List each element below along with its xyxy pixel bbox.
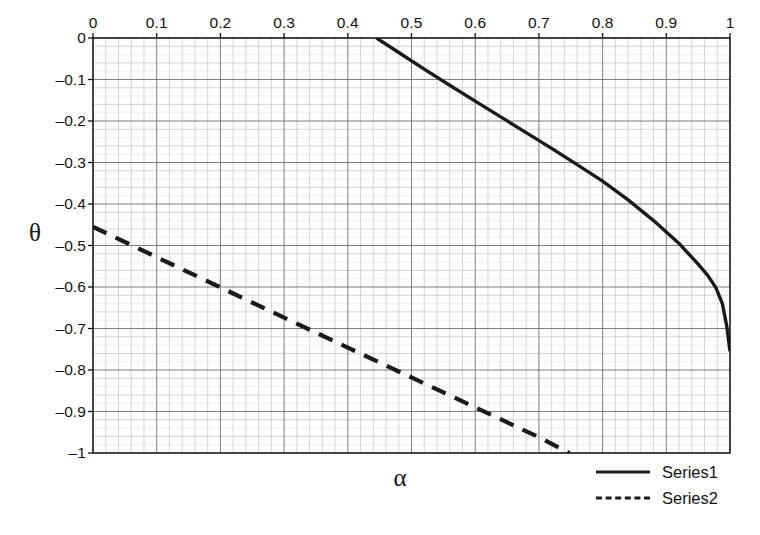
y-tick-label: –1 [69,444,86,462]
legend-item-series2: Series2 [592,485,760,511]
y-tick-label: –0.1 [55,71,86,89]
x-tick-label: 0.8 [592,14,614,32]
x-tick-label: 0.9 [655,14,677,32]
x-axis-title: α [393,464,406,492]
y-axis-tick-labels: 0–0.1–0.2–0.3–0.4–0.5–0.6–0.7–0.8–0.9–1 [0,0,86,535]
x-tick-label: 0.6 [464,14,486,32]
x-tick-label: 0.5 [401,14,423,32]
y-tick-label: –0.5 [55,237,86,255]
y-tick-label: –0.4 [55,195,86,213]
chart-figure: 00.10.20.30.40.50.60.70.80.91 0–0.1–0.2–… [0,0,760,535]
plot-canvas [0,0,760,535]
y-tick-label: –0.7 [55,320,86,338]
x-tick-label: 0.2 [209,14,231,32]
x-tick-label: 0.1 [146,14,168,32]
x-tick-label: 0.7 [528,14,550,32]
y-tick-label: 0 [77,29,86,47]
y-tick-label: –0.3 [55,154,86,172]
y-axis-title: θ [29,219,41,247]
chart-legend: Series1 Series2 [592,459,760,511]
legend-item-series1: Series1 [592,459,760,485]
legend-key-solid-icon [592,465,654,479]
y-tick-label: –0.6 [55,278,86,296]
legend-key-dashed-icon [592,491,654,505]
x-tick-label: 0.4 [337,14,359,32]
legend-label-series1: Series1 [654,463,718,482]
x-tick-label: 1 [726,14,735,32]
y-tick-label: –0.9 [55,403,86,421]
x-tick-label: 0 [89,14,98,32]
y-tick-label: –0.2 [55,112,86,130]
legend-label-series2: Series2 [654,489,718,508]
y-tick-label: –0.8 [55,361,86,379]
x-tick-label: 0.3 [273,14,295,32]
